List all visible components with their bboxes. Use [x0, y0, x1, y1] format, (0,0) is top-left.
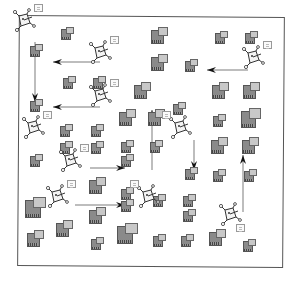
server-node-icon — [89, 177, 107, 194]
agent-data-card-icon — [110, 36, 119, 44]
robot-icon — [136, 184, 160, 208]
robot-icon — [45, 184, 69, 208]
server-node-icon — [151, 27, 169, 44]
agent-data-card-icon — [43, 111, 52, 119]
mobile-agent — [88, 83, 112, 107]
server-node-icon — [185, 59, 199, 72]
server-node-icon — [91, 141, 105, 154]
mobile-agent — [88, 40, 112, 64]
server-node-icon — [211, 137, 229, 154]
server-node-icon — [213, 114, 227, 127]
server-node-icon — [244, 169, 258, 182]
server-node-icon — [213, 169, 227, 182]
server-node-icon — [121, 199, 135, 212]
server-node-icon — [241, 108, 262, 128]
mobile-agent — [21, 115, 45, 139]
robot-icon — [88, 40, 112, 64]
mobile-agent — [12, 8, 36, 32]
server-node-icon — [63, 76, 77, 89]
server-node-icon — [25, 197, 47, 218]
server-node-icon — [209, 229, 227, 246]
server-node-icon — [153, 234, 167, 247]
server-node-icon — [121, 140, 135, 153]
server-node-icon — [119, 109, 137, 126]
server-node-icon — [60, 124, 74, 137]
server-node-icon — [56, 220, 74, 237]
mobile-agent — [218, 202, 242, 226]
mobile-agent — [168, 115, 192, 139]
server-node-icon — [243, 82, 261, 99]
agent-data-card-icon — [67, 180, 76, 188]
server-node-icon — [91, 124, 105, 137]
agent-data-card-icon — [110, 79, 119, 87]
server-node-icon — [212, 82, 230, 99]
robot-icon — [12, 8, 36, 32]
robot-icon — [218, 202, 242, 226]
mobile-agent — [58, 148, 82, 172]
server-node-icon — [150, 140, 164, 153]
robot-icon — [58, 148, 82, 172]
server-node-icon — [134, 82, 152, 99]
server-node-icon — [245, 31, 259, 44]
server-node-icon — [173, 102, 187, 115]
agent-data-card-icon — [162, 111, 171, 119]
server-node-icon — [61, 27, 75, 40]
agent-data-card-icon — [263, 41, 272, 49]
mobile-agent — [136, 184, 160, 208]
server-node-icon — [183, 194, 197, 207]
robot-icon — [21, 115, 45, 139]
server-node-icon — [185, 167, 199, 180]
agent-data-card-icon — [34, 4, 43, 12]
agent-migration-diagram — [0, 0, 298, 283]
agent-data-card-icon — [80, 144, 89, 152]
robot-icon — [88, 83, 112, 107]
server-node-icon — [183, 209, 197, 222]
server-node-icon — [242, 137, 260, 154]
agent-data-card-icon — [236, 224, 245, 232]
server-node-icon — [121, 154, 135, 167]
agent-data-card-icon — [130, 180, 139, 188]
mobile-agent — [241, 45, 265, 69]
server-node-icon — [181, 234, 195, 247]
server-node-icon — [91, 237, 105, 250]
server-node-icon — [117, 223, 139, 244]
server-node-icon — [30, 99, 44, 112]
server-node-icon — [243, 239, 257, 252]
server-node-icon — [151, 54, 169, 71]
mobile-agent — [45, 184, 69, 208]
robot-icon — [168, 115, 192, 139]
server-node-icon — [30, 44, 44, 57]
server-node-icon — [30, 154, 44, 167]
server-node-icon — [27, 230, 45, 247]
robot-icon — [241, 45, 265, 69]
server-node-icon — [215, 31, 229, 44]
server-node-icon — [89, 207, 107, 224]
